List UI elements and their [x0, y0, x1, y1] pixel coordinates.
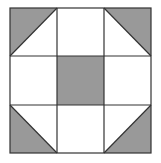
- center-square: [57, 56, 104, 105]
- quilt-block-diagram: [0, 0, 161, 163]
